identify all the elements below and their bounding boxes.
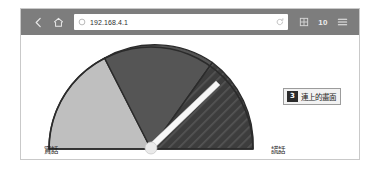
callout-badge: 3 xyxy=(287,91,298,102)
chevron-left-icon xyxy=(34,17,43,28)
gauge-needle-pivot xyxy=(145,142,157,154)
bookmark-button[interactable] xyxy=(294,12,314,32)
home-icon xyxy=(53,17,64,28)
hamburger-menu-icon xyxy=(337,17,348,27)
gauge-label-right: 謊話 xyxy=(271,147,285,155)
callout-text: 連上的畫面 xyxy=(301,91,336,102)
callout-box: 3 連上的畫面 xyxy=(283,88,341,105)
gauge-svg xyxy=(41,37,273,159)
browser-window: 192.168.4.1 10 xyxy=(20,8,360,160)
gauge-label-left: 實話 xyxy=(44,147,58,155)
bookmark-icon xyxy=(299,17,309,27)
menu-button[interactable] xyxy=(332,12,352,32)
address-bar[interactable]: 192.168.4.1 xyxy=(74,14,288,30)
page-content: 實話 謊話 3 連上的畫面 xyxy=(21,35,359,160)
tab-count-button[interactable]: 10 xyxy=(314,18,332,27)
page-info-icon xyxy=(78,18,86,26)
browser-toolbar: 192.168.4.1 10 xyxy=(21,9,359,35)
home-button[interactable] xyxy=(48,12,68,32)
back-button[interactable] xyxy=(28,12,48,32)
reload-icon[interactable] xyxy=(276,18,284,26)
url-text[interactable]: 192.168.4.1 xyxy=(90,19,276,26)
